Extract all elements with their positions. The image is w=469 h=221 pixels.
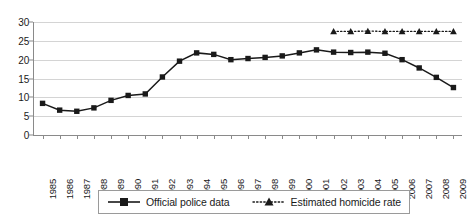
data-point-square [262,55,267,60]
data-point-square [125,93,130,98]
legend-label-official-police-data: Official police data [146,196,230,208]
square-solid-line-swatch [107,196,141,208]
data-point-square [143,91,148,96]
data-point-triangle [330,28,337,34]
x-axis-tick-label: 1986 [64,179,75,199]
data-point-square [211,52,216,57]
homicide-rate-line-chart: 051015202530 198519861987198819891990199… [0,0,469,221]
y-axis-tick-label: 30 [18,17,29,28]
data-point-square [280,53,285,58]
data-point-square [160,74,165,79]
triangle-dotted-line-swatch [252,196,286,208]
data-point-square [74,109,79,114]
y-axis-tick-label: 25 [18,35,29,46]
data-point-square [228,57,233,62]
data-point-square [451,85,456,90]
data-point-square [57,107,62,112]
data-point-square [108,98,113,103]
data-point-square [40,101,45,106]
y-axis-tick-label: 15 [18,73,29,84]
data-point-square [245,56,250,61]
data-point-square [91,105,96,110]
data-point-square [382,51,387,56]
chart-legend: Official police data Estimated homicide … [98,190,410,214]
data-point-triangle [450,28,457,34]
x-axis: 1985198619871988198919901991199219931994… [0,139,469,181]
data-point-square [314,47,319,52]
data-point-square [417,65,422,70]
data-point-square [177,58,182,63]
x-axis-tick-label: 1987 [81,179,92,199]
legend-item-estimated-homicide-rate: Estimated homicide rate [252,196,401,208]
y-axis-tick-label: 10 [18,92,29,103]
x-axis-tick-label: 1985 [47,179,58,199]
data-point-square [348,50,353,55]
data-point-square [194,50,199,55]
data-point-square [434,75,439,80]
data-point-square [297,50,302,55]
legend-label-estimated-homicide-rate: Estimated homicide rate [291,196,401,208]
x-axis-tick-label: 2008 [440,179,451,199]
data-point-square [365,49,370,54]
y-axis-tick-label: 20 [18,54,29,65]
data-point-square [399,57,404,62]
legend-item-official-police-data: Official police data [107,196,230,208]
x-axis-tick-label: 2009 [457,179,468,199]
data-point-square [331,49,336,54]
x-axis-tick-label: 2007 [423,179,434,199]
